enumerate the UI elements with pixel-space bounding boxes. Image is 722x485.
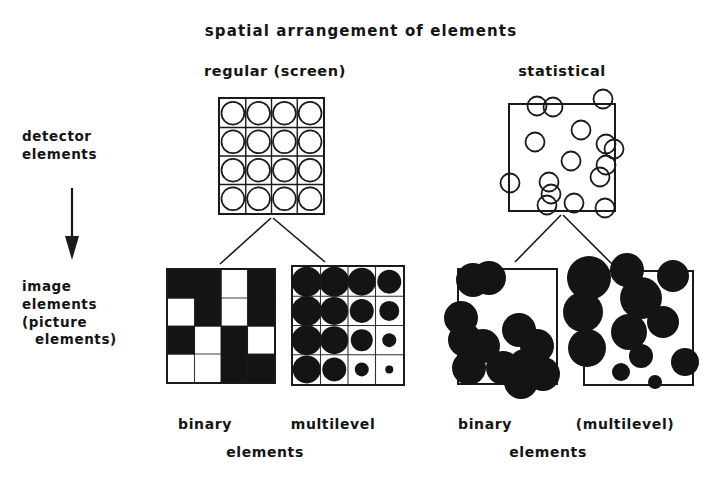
statistical-binary-blob <box>452 351 486 385</box>
column-header-regular: regular (screen) <box>175 62 375 81</box>
down-arrow-icon <box>52 188 92 266</box>
statistical-multilevel-blob <box>568 329 606 367</box>
row-label-image-line3: (picture <box>22 314 87 330</box>
row-label-detector-elements: detector elements <box>22 128 142 164</box>
regular-binary-graphic <box>168 270 274 382</box>
statistical-multilevel-blob <box>648 375 662 389</box>
binary-cell <box>168 270 195 299</box>
statistical-multilevel-blob <box>563 292 603 332</box>
panel-regular-multilevel <box>291 265 405 386</box>
binary-cell <box>248 354 275 383</box>
label-multilevel-right: (multilevel) <box>550 415 700 433</box>
panel-statistical-detector <box>508 103 616 212</box>
multilevel-dot <box>351 329 373 351</box>
multilevel-dot <box>355 362 369 376</box>
multilevel-dot <box>292 325 322 355</box>
binary-cell <box>221 326 248 355</box>
binary-cell <box>195 270 222 299</box>
multilevel-dot <box>377 270 401 294</box>
binary-cell <box>168 326 195 355</box>
panel-regular-detector <box>218 97 325 215</box>
row-label-image-line1: image <box>22 278 72 294</box>
regular-detector-graphic <box>220 99 323 213</box>
multilevel-dot <box>292 267 322 297</box>
panel-statistical-multilevel <box>583 270 694 386</box>
panel-statistical-binary <box>457 268 558 385</box>
panel-regular-binary <box>166 268 276 384</box>
figure-title: spatial arrangement of elements <box>0 22 722 42</box>
multilevel-dot <box>382 333 396 347</box>
multilevel-dot <box>348 268 376 296</box>
statistical-detector-graphic <box>510 105 614 210</box>
multilevel-dot <box>322 357 346 381</box>
statistical-multilevel-blob <box>657 260 689 292</box>
regular-multilevel-graphic <box>293 267 403 384</box>
row-label-image-line2: elements <box>22 296 97 312</box>
label-elements-right: elements <box>448 443 648 461</box>
multilevel-dot <box>379 301 399 321</box>
multilevel-dot <box>385 365 393 373</box>
figure-root: spatial arrangement of elements regular … <box>0 0 722 485</box>
statistical-binary-blob <box>504 365 538 399</box>
multilevel-dot <box>319 267 349 297</box>
label-binary-right: binary <box>430 415 540 433</box>
label-binary-left: binary <box>150 415 260 433</box>
multilevel-dot <box>320 297 348 325</box>
label-multilevel-left: multilevel <box>263 415 403 433</box>
row-label-image-line4: elements) <box>22 331 152 349</box>
statistical-binary-graphic <box>459 270 556 383</box>
row-label-detector-line2: elements <box>22 146 97 162</box>
statistical-multilevel-graphic <box>585 272 692 384</box>
binary-cell <box>248 270 275 299</box>
column-header-statistical: statistical <box>462 62 662 81</box>
statistical-multilevel-blob <box>647 306 679 338</box>
multilevel-dot <box>293 355 321 383</box>
binary-cell <box>221 354 248 383</box>
multilevel-dot <box>350 299 374 323</box>
row-label-image-elements: image elements (picture elements) <box>22 278 152 349</box>
statistical-multilevel-blob <box>671 348 699 376</box>
statistical-binary-blob <box>472 261 506 295</box>
row-label-detector-line1: detector <box>22 128 92 144</box>
multilevel-dot <box>292 296 322 326</box>
statistical-multilevel-blob <box>629 344 653 368</box>
binary-cell <box>248 298 275 327</box>
label-elements-left: elements <box>165 443 365 461</box>
binary-cell <box>195 298 222 327</box>
statistical-multilevel-blob <box>612 363 630 381</box>
multilevel-dot <box>320 326 348 354</box>
